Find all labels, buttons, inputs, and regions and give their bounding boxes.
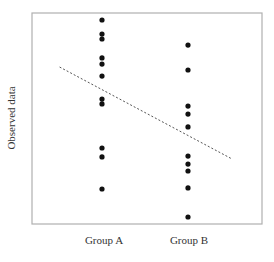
x-tick-group-b: Group B [170,234,208,246]
data-point [99,186,104,191]
data-point [185,124,190,129]
data-point [99,55,104,60]
group-a-points [99,17,104,191]
data-point [185,214,190,219]
y-axis-label: Observed data [5,86,17,149]
data-point [185,168,190,173]
data-point [185,162,190,167]
data-point [185,112,190,117]
plot-frame [32,13,262,224]
data-point [185,104,190,109]
data-point [99,154,104,159]
x-tick-group-a: Group A [85,234,123,246]
group-b-points [185,43,190,220]
data-point [185,185,190,190]
data-point [99,97,104,102]
data-point [185,154,190,159]
scatter-chart [0,0,274,262]
trend-line [60,67,233,159]
data-point [185,43,190,48]
data-point [99,31,104,36]
data-point [99,62,104,67]
data-point [185,67,190,72]
data-point [99,17,104,22]
data-point [99,145,104,150]
data-point [99,74,104,79]
data-point [99,101,104,106]
data-point [99,36,104,41]
